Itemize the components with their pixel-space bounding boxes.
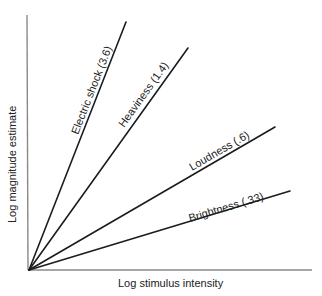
label-brightness: Brightness (.33) [187,190,265,224]
series-labels: Electric shock (3.6) Heaviness (1.4) Lou… [69,44,265,224]
series-lines [29,22,290,270]
label-heaviness: Heaviness (1.4) [116,60,171,130]
line-electric-shock [29,22,126,270]
y-axis [27,15,28,270]
x-axis-label: Log stimulus intensity [118,277,224,289]
label-loudness: Loudness (.6) [187,129,251,173]
label-electric-shock: Electric shock (3.6) [69,44,114,135]
line-heaviness [29,48,188,270]
y-axis-label: Log magnitude estimate [6,106,18,223]
axes [27,15,312,270]
power-law-chart: Electric shock (3.6) Heaviness (1.4) Lou… [0,0,322,296]
